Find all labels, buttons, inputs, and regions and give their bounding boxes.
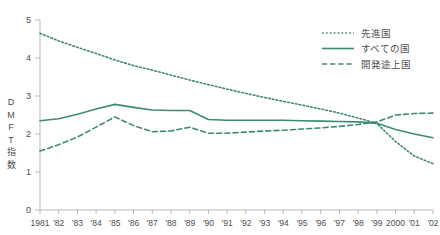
- series-line-2: [40, 113, 433, 151]
- x-tick-label: '92: [240, 218, 251, 228]
- x-tick-label: '88: [165, 218, 176, 228]
- x-tick-label: '96: [315, 218, 326, 228]
- x-tick-label: '84: [91, 218, 102, 228]
- y-tick-label: 3: [26, 91, 31, 101]
- x-tick-label: '89: [184, 218, 195, 228]
- y-tick-label: 2: [26, 129, 31, 139]
- x-tick-label: '99: [371, 218, 382, 228]
- y-axis-title-char: D: [8, 97, 15, 107]
- x-tick-label: '01: [409, 218, 420, 228]
- legend-label-0: 先進国: [361, 28, 391, 39]
- x-tick-label: '83: [72, 218, 83, 228]
- dmft-line-chart: 012345 DMFT指数 1981'82'83'84'85'86'87'88'…: [0, 0, 440, 235]
- y-tick-label: 5: [26, 15, 31, 25]
- legend-label-1: すべての国: [361, 43, 410, 54]
- chart-legend: 先進国すべての国開発途上国: [322, 28, 411, 70]
- x-tick-label: '93: [259, 218, 270, 228]
- y-tick-label: 1: [26, 167, 31, 177]
- x-tick-label: '86: [128, 218, 139, 228]
- x-tick-label: '85: [109, 218, 120, 228]
- x-tick-label: '91: [222, 218, 233, 228]
- y-axis-title-char: 数: [7, 159, 16, 170]
- x-tick-label: 1981: [31, 218, 50, 228]
- y-axis-title: DMFT指数: [7, 97, 16, 170]
- y-axis-title-char: M: [7, 110, 15, 120]
- x-tick-label: '94: [278, 218, 289, 228]
- y-axis-title-char: T: [8, 135, 14, 145]
- x-tick-label: '82: [53, 218, 64, 228]
- y-axis-title-char: F: [8, 122, 14, 132]
- x-tick-label: '02: [427, 218, 438, 228]
- chart-canvas: 012345 DMFT指数 1981'82'83'84'85'86'87'88'…: [0, 0, 440, 235]
- y-tick-label: 4: [26, 53, 31, 63]
- x-axis-ticks: [40, 210, 433, 214]
- y-axis-ticks: 012345: [26, 15, 40, 215]
- y-axis-title-char: 指: [7, 146, 16, 157]
- x-tick-label: '95: [296, 218, 307, 228]
- x-tick-label: '90: [203, 218, 214, 228]
- y-tick-label: 0: [26, 205, 31, 215]
- x-tick-label: '87: [147, 218, 158, 228]
- x-tick-label: '97: [334, 218, 345, 228]
- y-axis-group: 012345 DMFT指数: [7, 15, 41, 215]
- legend-label-2: 開発途上国: [361, 59, 411, 70]
- x-tick-label: '98: [353, 218, 364, 228]
- x-axis-tick-labels: 1981'82'83'84'85'86'87'88'89'90'91'92'93…: [31, 218, 439, 228]
- x-tick-label: 2000: [386, 218, 405, 228]
- x-axis-group: 1981'82'83'84'85'86'87'88'89'90'91'92'93…: [31, 210, 439, 228]
